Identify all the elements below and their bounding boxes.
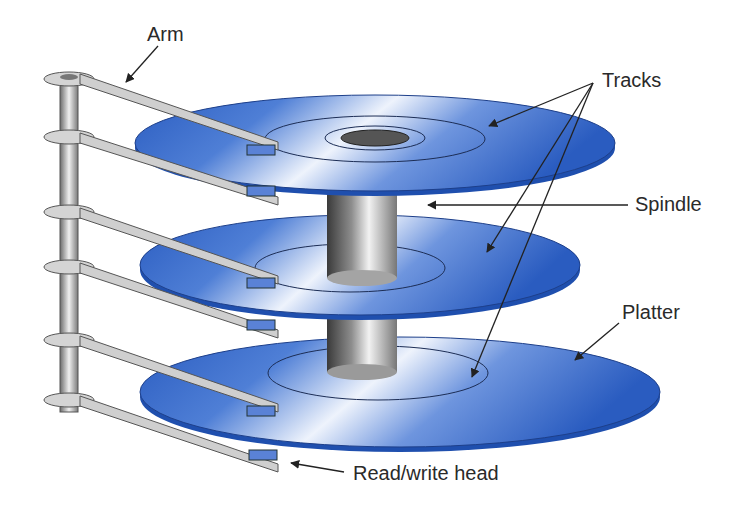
read-write-head [247,406,275,416]
label-read-write-head: Read/write head [353,463,499,483]
label-tracks: Tracks [602,70,661,90]
label-spindle: Spindle [635,194,702,214]
label-arm: Arm [147,24,184,44]
read-write-head [247,278,275,288]
spindle-upper [327,190,397,286]
label-platter: Platter [622,302,680,322]
platter-arrow [575,323,619,360]
read-write-head [249,450,277,460]
spindle-hole [341,130,409,146]
hard-disk-diagram: Arm Tracks Spindle Platter Read/write he… [0,0,745,506]
read-write-head [247,186,275,196]
read-write-head [247,320,275,330]
read-write-head-arrow [291,463,344,472]
read-write-head [247,145,275,155]
arm-arrow [126,46,158,82]
